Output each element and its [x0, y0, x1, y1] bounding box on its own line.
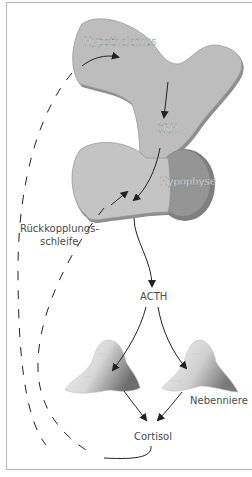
label-acth: ACTH [140, 291, 167, 302]
arrow-adrenal-left-to-cortisol [124, 391, 146, 420]
label-nebenniere: Nebenniere [190, 395, 248, 406]
feedback-loop-to-hypothalamus [18, 73, 72, 445]
hpa-axis-diagram: Hypothalamus CRH Hypophyse Rückkopplungs… [0, 0, 252, 477]
label-feedback-line1: Rückkopplungs- [20, 223, 99, 234]
label-cortisol: Cortisol [134, 431, 172, 442]
cortisol-feedback-start [104, 446, 151, 459]
arrow-adrenal-right-to-cortisol [158, 392, 182, 420]
label-hypophyse: Hypophyse [160, 176, 216, 187]
arrow-acth-to-adrenal-right [158, 307, 186, 368]
arrow-hypophyse-to-acth [134, 218, 152, 286]
label-feedback-line2: schleife [40, 236, 78, 247]
label-crh: CRH [156, 123, 177, 134]
adrenal-gland-right [162, 340, 238, 392]
adrenal-gland-left [65, 340, 140, 393]
label-hypothalamus: Hypothalamus [84, 36, 157, 47]
